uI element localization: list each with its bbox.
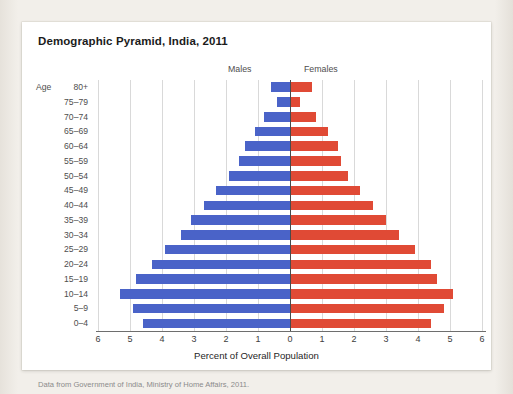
bar-female bbox=[290, 215, 386, 225]
y-axis-tick-labels: 80+75–7970–7465–6960–6455–5950–5445–4940… bbox=[22, 80, 96, 331]
bar-male bbox=[152, 260, 290, 270]
y-axis-tick-label: 25–29 bbox=[64, 242, 88, 257]
x-axis-tick-label: 5 bbox=[118, 334, 142, 344]
gridline bbox=[482, 80, 483, 331]
y-axis-tick-label: 5–9 bbox=[74, 301, 88, 316]
bar-male bbox=[264, 112, 290, 122]
y-axis-tick-label: 30–34 bbox=[64, 228, 88, 243]
y-axis-tick-label: 70–74 bbox=[64, 110, 88, 125]
y-axis-tick-label: 80+ bbox=[73, 80, 88, 95]
x-axis-tick-label: 2 bbox=[214, 334, 238, 344]
bar-female bbox=[290, 97, 300, 107]
y-axis-tick-label: 75–79 bbox=[64, 95, 88, 110]
bar-male bbox=[229, 171, 290, 181]
x-axis-tick-label: 2 bbox=[342, 334, 366, 344]
bar-female bbox=[290, 201, 373, 211]
bar-female bbox=[290, 304, 444, 314]
y-axis-tick-label: 45–49 bbox=[64, 183, 88, 198]
x-axis-tick-label: 4 bbox=[406, 334, 430, 344]
y-axis-tick-label: 10–14 bbox=[64, 287, 88, 302]
bar-male bbox=[133, 304, 290, 314]
bar-male bbox=[277, 97, 290, 107]
bar-female bbox=[290, 141, 338, 151]
x-axis-tick-label: 6 bbox=[86, 334, 110, 344]
bar-female bbox=[290, 186, 360, 196]
x-axis-tick-label: 1 bbox=[310, 334, 334, 344]
legend-label-males: Males bbox=[228, 64, 251, 74]
x-axis-tick-label: 4 bbox=[150, 334, 174, 344]
bar-female bbox=[290, 127, 328, 137]
bar-male bbox=[191, 215, 290, 225]
bar-female bbox=[290, 156, 341, 166]
y-axis-tick-label: 20–24 bbox=[64, 257, 88, 272]
source-note: Data from Government of India, Ministry … bbox=[38, 380, 249, 389]
bar-female bbox=[290, 245, 415, 255]
zero-axis-line bbox=[290, 80, 291, 331]
y-axis-tick-label: 15–19 bbox=[64, 272, 88, 287]
y-axis-tick-label: 65–69 bbox=[64, 124, 88, 139]
bar-female bbox=[290, 289, 453, 299]
bar-male bbox=[216, 186, 290, 196]
bar-male bbox=[204, 201, 290, 211]
x-axis-tick-label: 6 bbox=[470, 334, 494, 344]
x-axis-tick-label: 1 bbox=[246, 334, 270, 344]
bar-female bbox=[290, 112, 316, 122]
legend-label-females: Females bbox=[304, 64, 338, 74]
bar-female bbox=[290, 260, 431, 270]
x-axis-tick-label: 3 bbox=[182, 334, 206, 344]
x-axis-tick-labels: 6543210123456 bbox=[98, 334, 482, 348]
y-axis-tick-label: 35–39 bbox=[64, 213, 88, 228]
bar-male bbox=[120, 289, 290, 299]
chart-card: Demographic Pyramid, India, 2011 Males F… bbox=[22, 22, 491, 370]
bar-male bbox=[271, 82, 290, 92]
y-axis-tick-label: 60–64 bbox=[64, 139, 88, 154]
bar-male bbox=[165, 245, 290, 255]
bar-male bbox=[239, 156, 290, 166]
bar-female bbox=[290, 171, 348, 181]
y-axis-tick-label: 0–4 bbox=[74, 316, 88, 331]
y-axis-tick-label: 55–59 bbox=[64, 154, 88, 169]
x-axis-tick-label: 5 bbox=[438, 334, 462, 344]
chart-title: Demographic Pyramid, India, 2011 bbox=[38, 35, 228, 47]
x-axis-tick-label: 0 bbox=[278, 334, 302, 344]
x-axis-title: Percent of Overall Population bbox=[22, 350, 491, 361]
plot-area bbox=[98, 80, 482, 331]
bar-female bbox=[290, 82, 312, 92]
x-axis-line bbox=[96, 331, 486, 332]
bar-male bbox=[181, 230, 290, 240]
y-axis-tick-label: 40–44 bbox=[64, 198, 88, 213]
y-axis-tick-label: 50–54 bbox=[64, 169, 88, 184]
bar-female bbox=[290, 319, 431, 329]
bar-male bbox=[143, 319, 290, 329]
bar-female bbox=[290, 274, 437, 284]
bar-male bbox=[255, 127, 290, 137]
bar-female bbox=[290, 230, 399, 240]
x-axis-tick-label: 3 bbox=[374, 334, 398, 344]
bar-male bbox=[245, 141, 290, 151]
bar-male bbox=[136, 274, 290, 284]
